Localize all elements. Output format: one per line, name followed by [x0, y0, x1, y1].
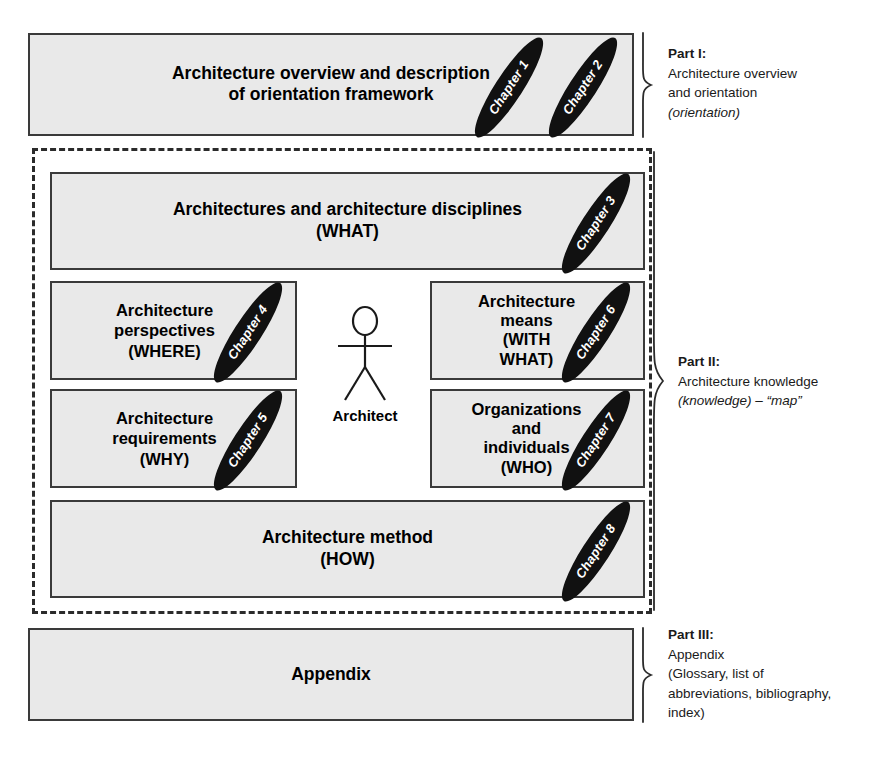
part2-box-where: Architecture perspectives (WHERE) Chapte… [50, 281, 297, 380]
part2-box-how-line1: Architecture method [52, 527, 643, 549]
part3-note: Part III: Appendix (Glossary, list of ab… [668, 625, 869, 723]
chapter-badge-2-label: Chapter 2 [559, 57, 605, 117]
chapter-badge-7-label: Chapter 7 [572, 410, 618, 470]
part2-box-why: Architecture requirements (WHY) Chapter … [50, 389, 297, 488]
part2-box-what-line1: Architectures and architecture disciplin… [52, 199, 643, 221]
part3-note-line2: (Glossary, list of [668, 664, 869, 684]
chapter-badge-5: Chapter 5 [205, 384, 292, 498]
part3-box-label: Appendix [30, 664, 632, 686]
chapter-badge-6-label: Chapter 6 [572, 302, 618, 362]
stick-figure-icon [325, 305, 405, 405]
chapter-badge-6: Chapter 6 [553, 276, 640, 390]
part1-note-title: Part I: [668, 44, 869, 64]
part3-note-title: Part III: [668, 625, 869, 645]
part1-overview-box: Architecture overview and description of… [28, 33, 634, 136]
chapter-badge-4-label: Chapter 4 [224, 302, 270, 362]
part1-brace [640, 31, 662, 139]
architect-figure: Architect [305, 305, 425, 424]
part2-note-line2-text: (knowledge) – “map” [678, 393, 802, 408]
part2-box-what-line2: (WHAT) [52, 221, 643, 243]
chapter-badge-2: Chapter 2 [540, 31, 627, 145]
part1-note: Part I: Architecture overview and orient… [668, 44, 869, 122]
chapter-badge-5-label: Chapter 5 [224, 410, 270, 470]
chapter-badge-1-label: Chapter 1 [485, 57, 531, 117]
part2-box-how: Architecture method (HOW) Chapter 8 [50, 500, 645, 598]
part2-box-how-line2: (HOW) [52, 549, 643, 571]
chapter-badge-4: Chapter 4 [205, 276, 292, 390]
chapter-badge-8-label: Chapter 8 [572, 521, 618, 581]
part3-appendix-box: Appendix [28, 628, 634, 721]
chapter-badge-7: Chapter 7 [553, 384, 640, 498]
chapter-badge-3-label: Chapter 3 [572, 193, 618, 253]
diagram-root: Architecture overview and description of… [0, 0, 869, 757]
part1-note-line2: and orientation [668, 83, 869, 103]
part1-note-line1: Architecture overview [668, 64, 869, 84]
part2-box-with-what: Architecture means (WITH WHAT) Chapter 6 [430, 281, 645, 380]
chapter-badge-1: Chapter 1 [466, 31, 553, 145]
part1-box-line1: Architecture overview and description [30, 63, 632, 85]
part2-box-who: Organizations and individuals (WHO) Chap… [430, 389, 645, 488]
part3-note-line4: index) [668, 703, 869, 723]
part2-note-line1: Architecture knowledge [678, 372, 869, 392]
part2-box-what: Architectures and architecture disciplin… [50, 172, 645, 270]
part2-box-with-what-line1: Architecture [432, 292, 621, 311]
part3-note-line3: abbreviations, bibliography, [668, 684, 869, 704]
part2-note-title: Part II: [678, 352, 869, 372]
part1-note-line3: (orientation) [668, 103, 869, 123]
chapter-badge-3: Chapter 3 [553, 167, 640, 281]
part3-brace [640, 626, 662, 724]
chapter-badge-8: Chapter 8 [553, 495, 640, 609]
part3-note-line1: Appendix [668, 645, 869, 665]
part1-box-line2: of orientation framework [30, 85, 632, 107]
part2-note: Part II: Architecture knowledge (knowled… [678, 352, 869, 411]
part2-brace [650, 150, 672, 612]
part2-note-line2: (knowledge) – “map” [678, 391, 869, 411]
part2-box-who-line1: Organizations [432, 400, 621, 419]
architect-label: Architect [305, 407, 425, 424]
